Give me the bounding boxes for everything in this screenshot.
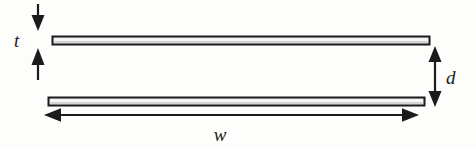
diagram-background <box>0 0 476 148</box>
parallel-plate-diagram: t d w <box>0 0 476 148</box>
separation-label: d <box>446 67 456 88</box>
bottom-plate-group <box>49 98 425 106</box>
diagram-canvas: t d w <box>0 0 476 148</box>
thickness-label: t <box>14 30 20 51</box>
width-label: w <box>214 124 227 145</box>
top-plate-group <box>53 37 430 45</box>
top-plate-shading <box>55 41 428 43</box>
bottom-plate-shading <box>51 102 423 104</box>
bottom-plate-highlight <box>51 100 423 102</box>
top-plate-highlight <box>55 39 428 41</box>
